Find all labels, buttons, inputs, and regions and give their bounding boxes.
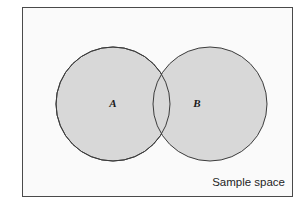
venn-diagram-canvas: A B Sample space — [0, 0, 303, 205]
set-a-label: A — [108, 97, 116, 109]
sample-space-caption: Sample space — [212, 176, 285, 188]
set-b-label: B — [192, 97, 200, 109]
venn-diagram-figure: A B Sample space — [0, 0, 303, 205]
